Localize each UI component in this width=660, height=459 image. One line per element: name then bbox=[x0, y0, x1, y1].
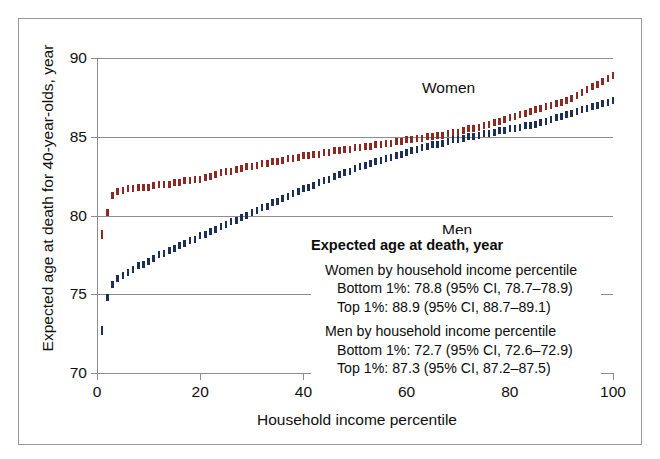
data-mark bbox=[127, 269, 130, 276]
annotation-group: Men by household income percentileBottom… bbox=[311, 322, 601, 377]
data-mark bbox=[385, 155, 388, 162]
data-mark bbox=[183, 240, 186, 247]
x-tick-label-80: 80 bbox=[485, 384, 535, 400]
data-mark bbox=[426, 143, 429, 150]
data-mark bbox=[111, 281, 114, 288]
data-mark bbox=[168, 247, 171, 254]
data-mark bbox=[369, 160, 372, 167]
data-mark bbox=[462, 135, 465, 142]
y-tick-label-70: 70 bbox=[49, 365, 87, 381]
annotation-group: Women by household income percentileBott… bbox=[311, 261, 601, 316]
annotation-row: Bottom 1%: 78.8 (95% CI, 78.7–78.9) bbox=[311, 279, 601, 297]
data-mark bbox=[441, 140, 444, 147]
series-label-women: Women bbox=[422, 79, 475, 97]
data-mark bbox=[591, 103, 594, 110]
annotation-group-head: Men by household income percentile bbox=[311, 322, 601, 340]
data-mark bbox=[333, 173, 336, 180]
data-mark bbox=[539, 119, 542, 126]
plot-area: 7075808590 020406080100 Women Men Expect… bbox=[97, 58, 613, 373]
data-mark bbox=[328, 176, 331, 183]
data-mark bbox=[519, 124, 522, 131]
data-mark bbox=[302, 185, 305, 192]
annotation-row: Top 1%: 87.3 (95% CI, 87.2–87.5) bbox=[311, 359, 601, 377]
data-mark bbox=[194, 236, 197, 243]
data-mark bbox=[106, 294, 109, 301]
data-mark bbox=[607, 99, 610, 106]
data-mark bbox=[488, 130, 491, 137]
data-mark bbox=[245, 212, 248, 219]
data-mark bbox=[452, 136, 455, 143]
x-tick-label-40: 40 bbox=[278, 384, 328, 400]
x-tick-mark-20 bbox=[200, 373, 201, 380]
data-mark bbox=[400, 151, 403, 158]
data-mark bbox=[354, 165, 357, 172]
data-mark bbox=[395, 152, 398, 159]
data-mark bbox=[318, 179, 321, 186]
data-mark bbox=[560, 113, 563, 120]
data-mark bbox=[240, 214, 243, 221]
data-mark bbox=[503, 127, 506, 134]
data-mark bbox=[178, 242, 181, 249]
data-mark bbox=[390, 154, 393, 161]
data-mark bbox=[266, 203, 269, 210]
data-mark bbox=[173, 245, 176, 252]
x-tick-mark-0 bbox=[97, 373, 98, 380]
data-mark bbox=[436, 141, 439, 148]
data-mark bbox=[349, 168, 352, 175]
data-mark bbox=[431, 141, 434, 148]
data-mark bbox=[276, 198, 279, 205]
data-mark bbox=[163, 250, 166, 257]
x-tick-label-20: 20 bbox=[175, 384, 225, 400]
data-mark bbox=[467, 133, 470, 140]
data-mark bbox=[586, 105, 589, 112]
y-axis-title: Expected age at death for 40-year-olds, … bbox=[39, 33, 57, 363]
y-tick-label-90: 90 bbox=[49, 50, 87, 66]
data-mark bbox=[565, 111, 568, 118]
data-mark bbox=[116, 275, 119, 282]
data-mark bbox=[410, 147, 413, 154]
x-tick-mark-40 bbox=[303, 373, 304, 380]
data-mark bbox=[601, 100, 604, 107]
x-tick-label-0: 0 bbox=[72, 384, 122, 400]
data-mark bbox=[498, 127, 501, 134]
data-mark bbox=[142, 261, 145, 268]
data-mark bbox=[132, 266, 135, 273]
data-mark bbox=[421, 144, 424, 151]
data-mark bbox=[545, 118, 548, 125]
data-mark bbox=[137, 262, 140, 269]
data-mark bbox=[612, 97, 615, 104]
data-mark bbox=[209, 228, 212, 235]
data-mark bbox=[338, 171, 341, 178]
data-mark bbox=[312, 182, 315, 189]
data-mark bbox=[307, 184, 310, 191]
data-mark bbox=[472, 133, 475, 140]
data-mark bbox=[235, 217, 238, 224]
data-mark bbox=[514, 125, 517, 132]
data-mark bbox=[256, 207, 259, 214]
annotation-row: Top 1%: 88.9 (95% CI, 88.7–89.1) bbox=[311, 298, 601, 316]
data-mark bbox=[478, 132, 481, 139]
x-tick-label-60: 60 bbox=[382, 384, 432, 400]
data-mark bbox=[380, 157, 383, 164]
data-mark bbox=[493, 129, 496, 136]
x-axis-title: Household income percentile bbox=[97, 411, 617, 429]
data-mark bbox=[457, 136, 460, 143]
data-mark bbox=[550, 116, 553, 123]
data-mark bbox=[483, 130, 486, 137]
data-mark bbox=[596, 102, 599, 109]
y-tick-label-85: 85 bbox=[49, 129, 87, 145]
annotation-box: Expected age at death, year Women by hou… bbox=[311, 234, 601, 380]
annotation-title: Expected age at death, year bbox=[311, 236, 601, 255]
data-mark bbox=[189, 237, 192, 244]
data-mark bbox=[122, 272, 125, 279]
data-mark bbox=[524, 122, 527, 129]
data-mark bbox=[158, 251, 161, 258]
data-mark bbox=[230, 218, 233, 225]
data-mark bbox=[251, 209, 254, 216]
data-mark bbox=[405, 149, 408, 156]
data-mark bbox=[287, 193, 290, 200]
data-mark bbox=[204, 231, 207, 238]
data-mark bbox=[220, 223, 223, 230]
data-mark bbox=[509, 125, 512, 132]
y-tick-label-80: 80 bbox=[49, 208, 87, 224]
